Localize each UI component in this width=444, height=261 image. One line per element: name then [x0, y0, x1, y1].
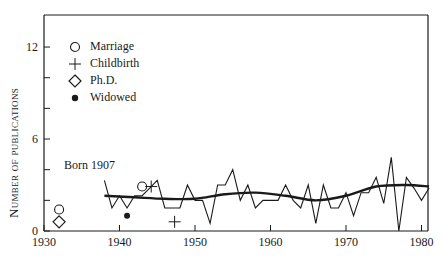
plus-icon [66, 57, 84, 71]
widowed-marker-icon [124, 213, 130, 219]
y-tick-label: 6 [32, 132, 38, 146]
x-tick-label: 1930 [32, 235, 56, 249]
x-tick-label: 1980 [410, 235, 434, 249]
legend: Marriage Childbirth Ph.D. Widowed [66, 38, 139, 106]
x-tick-label: 1940 [108, 235, 132, 249]
legend-item-phd: Ph.D. [66, 72, 139, 89]
x-tick-label: 1970 [334, 235, 358, 249]
open-circle-icon [66, 41, 84, 53]
ph-d-marker-icon [53, 216, 65, 228]
x-tick-label: 1960 [259, 235, 283, 249]
legend-item-widowed: Widowed [66, 89, 139, 106]
x-axis-ticks: 193019401950196019701980 [32, 225, 434, 249]
marriage-marker-icon [55, 205, 64, 214]
legend-item-childbirth: Childbirth [66, 55, 139, 72]
y-axis-label: Number of publications [4, 78, 24, 228]
filled-dot-icon [66, 93, 84, 103]
childbirth-marker-icon [169, 216, 181, 228]
event-markers [53, 181, 181, 228]
legend-item-marriage: Marriage [66, 38, 139, 55]
y-axis-ticks: 0612 [26, 40, 50, 238]
y-tick-label: 12 [26, 40, 38, 54]
open-diamond-icon [66, 74, 84, 88]
data-series [104, 157, 429, 231]
x-tick-label: 1950 [183, 235, 207, 249]
born-annotation: Born 1907 [64, 158, 115, 173]
